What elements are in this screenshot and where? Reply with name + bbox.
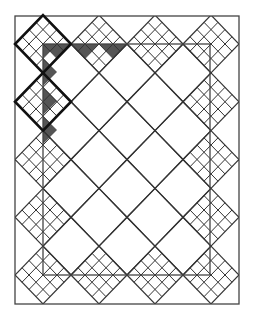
diamond-edge [99,217,127,246]
diamond-edge [155,159,183,188]
diamond-edge [127,188,155,217]
diamond-edge [155,102,183,131]
diamond-edge [99,73,127,102]
shaded-triangle [99,44,127,58]
diamond-edge [127,159,155,188]
diamond-edge [99,102,127,131]
diamond-edge [71,159,99,188]
diamond-edge [99,131,127,160]
diamond-edge [71,73,99,102]
shaded-triangle [43,87,57,115]
diamond-edge [127,217,155,246]
diamond-edge [155,217,183,246]
lattice [15,15,239,304]
diamond-edge [71,131,99,160]
diamond-edge [99,188,127,217]
diamond-edge [155,131,183,160]
diamond-edge [127,131,155,160]
quilt-diagram [0,0,255,325]
diamond-edge [127,102,155,131]
diamond-edge [99,159,127,188]
shaded-triangle [71,44,99,58]
diamond-edge [155,188,183,217]
quilt-canvas [0,0,255,325]
diamond-edge [127,73,155,102]
diamond-edge [71,102,99,131]
diamond-edge [155,73,183,102]
diamond-edge [71,217,99,246]
diamond-edge [71,188,99,217]
